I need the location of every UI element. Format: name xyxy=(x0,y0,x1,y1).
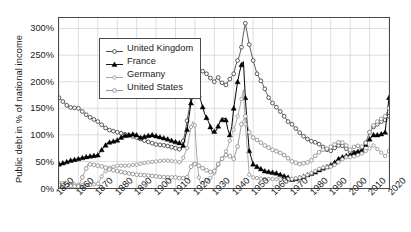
data-point-marker xyxy=(376,147,379,150)
legend-item-united-kingdom: United Kingdom xyxy=(105,42,193,55)
data-point-marker xyxy=(290,160,294,164)
data-point-marker xyxy=(113,89,117,93)
data-point-marker xyxy=(372,144,375,147)
data-point-marker xyxy=(271,177,274,180)
data-point-marker xyxy=(92,118,96,122)
data-point-marker xyxy=(372,123,376,127)
data-point-marker xyxy=(243,114,247,118)
data-point-marker xyxy=(286,156,290,160)
data-point-marker xyxy=(127,164,130,167)
data-point-marker xyxy=(275,105,279,109)
line-triangle-filled-marker xyxy=(105,56,124,67)
data-point-marker xyxy=(294,161,298,165)
data-point-marker xyxy=(115,130,119,134)
data-point-marker xyxy=(208,124,213,129)
data-point-marker xyxy=(209,76,213,80)
y-tick-label: 100% xyxy=(30,130,54,140)
data-point-marker xyxy=(216,162,220,166)
data-point-marker xyxy=(111,168,115,172)
data-point-marker xyxy=(251,176,254,179)
data-point-marker xyxy=(383,114,387,118)
data-point-marker xyxy=(135,163,138,166)
data-point-marker xyxy=(356,144,360,148)
data-point-marker xyxy=(248,173,251,176)
data-point-marker xyxy=(158,143,162,147)
data-point-marker xyxy=(116,164,119,167)
data-point-marker xyxy=(251,136,255,140)
data-point-marker xyxy=(267,146,271,150)
data-point-marker xyxy=(255,138,259,142)
data-point-marker xyxy=(232,128,235,131)
data-point-marker xyxy=(77,106,81,110)
series-germany xyxy=(59,90,389,187)
data-point-marker xyxy=(84,167,88,171)
data-point-marker xyxy=(329,149,333,153)
data-point-marker xyxy=(232,157,236,161)
data-point-marker xyxy=(232,72,236,76)
data-point-marker xyxy=(282,114,286,118)
data-point-marker xyxy=(139,162,142,165)
line-star-light-marker xyxy=(105,69,124,80)
y-tick-label: 200% xyxy=(30,77,54,87)
data-point-marker xyxy=(131,172,135,176)
data-point-marker xyxy=(212,80,216,84)
data-point-marker xyxy=(150,160,153,163)
data-point-marker xyxy=(197,164,201,168)
data-point-marker xyxy=(119,170,123,174)
data-point-marker xyxy=(314,169,317,172)
data-point-marker xyxy=(212,169,216,173)
data-point-marker xyxy=(310,171,313,174)
data-point-marker xyxy=(228,77,232,81)
data-point-marker xyxy=(119,164,122,167)
data-point-marker xyxy=(143,161,146,164)
data-point-marker xyxy=(224,150,227,153)
data-point-marker xyxy=(216,76,220,80)
data-point-marker xyxy=(170,145,174,149)
data-point-marker xyxy=(96,120,100,124)
data-point-marker xyxy=(345,156,348,159)
data-point-marker xyxy=(286,120,290,124)
data-point-marker xyxy=(247,130,251,134)
data-point-marker xyxy=(158,159,161,162)
data-point-marker xyxy=(251,59,255,63)
data-point-marker xyxy=(224,153,228,157)
data-point-marker xyxy=(302,134,306,138)
data-point-marker xyxy=(321,148,325,152)
data-point-marker xyxy=(321,166,324,169)
y-axis-tick-labels: 0%50%100%150%200%250%300% xyxy=(0,17,54,189)
data-point-marker xyxy=(228,139,231,142)
data-point-marker xyxy=(290,177,293,180)
data-point-marker xyxy=(333,143,337,147)
data-point-marker xyxy=(185,146,188,149)
x-axis-tick-labels: 1850186018701880189019001910192019301940… xyxy=(58,190,390,232)
data-point-marker xyxy=(333,163,336,166)
data-point-marker xyxy=(146,140,150,144)
data-point-marker xyxy=(150,174,154,178)
data-point-marker xyxy=(216,124,221,129)
data-point-marker xyxy=(170,159,173,162)
data-point-marker xyxy=(251,162,256,167)
data-point-marker xyxy=(197,176,200,179)
data-point-marker xyxy=(220,81,224,85)
data-point-marker xyxy=(282,153,286,157)
data-point-marker xyxy=(309,158,313,162)
data-point-marker xyxy=(162,143,166,147)
data-point-marker xyxy=(360,152,363,155)
data-point-marker xyxy=(135,173,139,177)
data-point-marker xyxy=(313,154,317,158)
data-point-marker xyxy=(364,141,368,145)
data-point-marker xyxy=(383,130,388,135)
data-point-marker xyxy=(178,160,181,163)
legend-label: United States xyxy=(127,82,183,93)
data-point-marker xyxy=(309,139,313,143)
y-tick-label: 50% xyxy=(35,157,54,167)
data-point-marker xyxy=(150,141,154,145)
data-point-marker xyxy=(166,159,169,162)
data-point-marker xyxy=(100,123,104,127)
data-point-marker xyxy=(154,143,158,147)
data-point-marker xyxy=(375,120,379,124)
data-point-marker xyxy=(271,101,275,105)
data-point-marker xyxy=(329,165,332,168)
data-point-marker xyxy=(294,127,298,131)
data-point-marker xyxy=(379,117,383,121)
